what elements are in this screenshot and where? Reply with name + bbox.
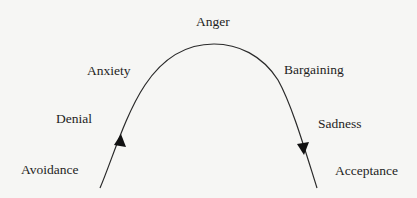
down-arrow-icon bbox=[297, 142, 309, 155]
stage-label-anxiety: Anxiety bbox=[87, 64, 131, 78]
up-arrow-icon bbox=[114, 134, 126, 147]
stage-label-sadness: Sadness bbox=[318, 117, 362, 131]
stage-label-acceptance: Acceptance bbox=[335, 164, 398, 178]
change-curve-diagram: Anger Anxiety Denial Avoidance Bargainin… bbox=[0, 0, 417, 198]
stage-label-bargaining: Bargaining bbox=[284, 63, 344, 77]
stage-label-avoidance: Avoidance bbox=[21, 163, 78, 177]
stage-label-anger: Anger bbox=[196, 15, 230, 29]
stage-label-denial: Denial bbox=[56, 112, 92, 126]
